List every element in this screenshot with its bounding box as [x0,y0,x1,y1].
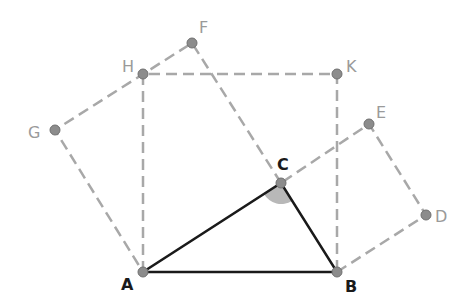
diagram-canvas: A B C D E F G H K [0,0,467,299]
point-d [421,210,431,220]
label-e: E [376,103,386,122]
triangle-abc [143,183,337,272]
point-a [138,267,148,277]
square-ca [55,43,281,272]
square-bc [281,124,426,272]
label-k: K [346,57,357,76]
point-k [332,69,342,79]
point-h [138,69,148,79]
label-d: D [435,207,447,226]
label-f: F [199,18,208,37]
point-c [276,178,286,188]
point-f [187,38,197,48]
point-e [364,119,374,129]
point-g [50,125,60,135]
square-ab [143,74,337,272]
geometry-diagram: A B C D E F G H K [0,0,467,299]
label-a: A [121,275,134,294]
label-b: B [345,277,357,296]
point-b [332,267,342,277]
label-c: C [277,155,289,174]
squares [55,43,426,272]
label-g: G [28,123,40,142]
label-h: H [122,57,134,76]
